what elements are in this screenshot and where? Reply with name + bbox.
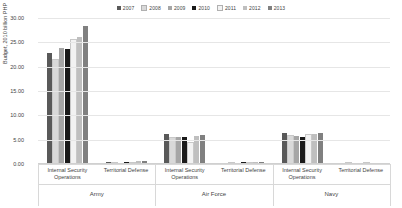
branch-separator [273, 164, 274, 206]
legend-label: 2007 [123, 6, 135, 11]
branch-labels: ArmyAir ForceNavy [38, 185, 390, 205]
legend-label: 2011 [225, 6, 236, 11]
gridline [38, 18, 390, 19]
legend-item[interactable]: 2012 [243, 6, 261, 11]
legend-item[interactable]: 2008 [141, 5, 161, 11]
category-label: Internal Security Operations [155, 165, 214, 185]
legend-swatch-icon [117, 6, 121, 10]
y-axis-tick-label: 0.00 [0, 162, 24, 168]
legend-item[interactable]: 2011 [217, 5, 236, 11]
legend-label: 2008 [149, 6, 161, 11]
legend-swatch-icon [243, 6, 247, 10]
bar[interactable] [312, 134, 317, 164]
category-label: Territorial Defense [214, 165, 273, 185]
legend-item[interactable]: 2013 [268, 6, 286, 11]
y-axis-tick-label: 20.00 [0, 64, 24, 70]
legend-swatch-icon [268, 6, 272, 10]
bar[interactable] [182, 137, 187, 164]
y-axis-tick-label: 30.00 [0, 16, 24, 22]
category-label: Territorial Defense [97, 165, 156, 185]
branch-separator [38, 164, 39, 206]
category-label: Territorial Defense [331, 165, 390, 185]
branch-label: Army [38, 185, 155, 205]
branch-label: Air Force [155, 185, 272, 205]
bar[interactable] [71, 40, 76, 164]
bar[interactable] [47, 53, 52, 164]
bar-chart: 2007200820092010201120122013 Budget, 201… [0, 0, 402, 208]
bar[interactable] [300, 137, 305, 164]
gridline [38, 42, 390, 43]
gridline [38, 91, 390, 92]
gridline [38, 115, 390, 116]
bar[interactable] [83, 26, 88, 164]
legend-item[interactable]: 2009 [168, 6, 186, 11]
gridline [38, 140, 390, 141]
bar[interactable] [59, 48, 64, 164]
category-labels: Internal Security OperationsTerritorial … [38, 165, 390, 185]
legend-swatch-icon [192, 6, 196, 10]
branch-label: Navy [273, 185, 390, 205]
legend-swatch-icon [217, 5, 223, 11]
legend-item[interactable]: 2010 [192, 6, 210, 11]
legend-swatch-icon [168, 6, 172, 10]
legend-label: 2010 [198, 6, 210, 11]
y-axis-label: Budget, 2010 billion PHP [2, 3, 8, 64]
y-axis-tick-label: 10.00 [0, 113, 24, 119]
legend-item[interactable]: 2007 [117, 6, 135, 11]
y-axis-tick-label: 25.00 [0, 40, 24, 46]
branch-separator [155, 164, 156, 206]
bar[interactable] [77, 37, 82, 164]
bar[interactable] [282, 133, 287, 164]
plot-area: 0.005.0010.0015.0020.0025.0030.00 [38, 18, 390, 164]
bar[interactable] [188, 143, 193, 164]
bar[interactable] [53, 60, 58, 164]
legend-swatch-icon [141, 5, 147, 11]
legend-label: 2012 [249, 6, 261, 11]
category-label: Internal Security Operations [273, 165, 332, 185]
legend-label: 2009 [174, 6, 186, 11]
branch-separator [390, 164, 391, 206]
gridline [38, 67, 390, 68]
chart-legend: 2007200820092010201120122013 [0, 5, 402, 11]
y-axis-tick-label: 5.00 [0, 137, 24, 143]
bar[interactable] [318, 133, 323, 164]
category-label: Internal Security Operations [38, 165, 97, 185]
bar[interactable] [170, 138, 175, 164]
legend-label: 2013 [274, 6, 286, 11]
y-axis-tick-label: 15.00 [0, 89, 24, 95]
bar[interactable] [176, 137, 181, 164]
